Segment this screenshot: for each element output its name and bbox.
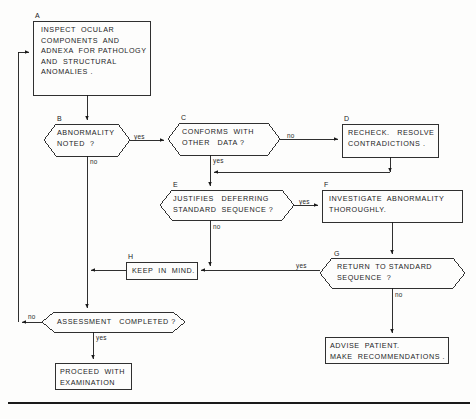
node-b-shape	[44, 124, 130, 156]
edge-label-g-yes: yes	[296, 262, 307, 269]
edge-label-b-yes: yes	[134, 133, 145, 140]
flowchart-graphics	[0, 0, 476, 419]
node-h-shape	[126, 262, 197, 279]
node-k-shape	[325, 337, 448, 363]
node-tag-b: B	[57, 115, 62, 122]
node-a-shape	[33, 21, 150, 95]
edge-label-c-no: no	[287, 132, 295, 139]
node-tag-g: G	[334, 250, 340, 257]
node-tag-e: E	[173, 181, 178, 188]
node-e-shape	[160, 190, 294, 220]
edge-label-i-yes: yes	[96, 334, 107, 341]
edge-label-e-no: no	[213, 223, 221, 230]
flowchart-canvas: A B C D E F G H INSPECT OCULAR COMPONENT…	[0, 0, 476, 419]
node-tag-c: C	[181, 114, 186, 121]
node-d-shape	[342, 124, 438, 157]
node-f-shape	[322, 190, 462, 222]
node-j-shape	[55, 363, 131, 389]
edge-label-b-no: no	[90, 158, 98, 165]
node-g-shape	[320, 258, 465, 288]
node-tag-h: H	[128, 253, 133, 260]
node-tag-f: F	[324, 181, 329, 188]
edge-label-i-no: no	[28, 313, 36, 320]
edge-label-g-no: no	[395, 291, 403, 298]
node-c-shape	[168, 123, 280, 155]
node-tag-a: A	[35, 12, 40, 19]
node-i-shape	[42, 312, 185, 332]
edge-label-c-yes: yes	[213, 157, 224, 164]
node-tag-d: D	[344, 115, 349, 122]
edge-label-e-yes: yes	[299, 198, 310, 205]
